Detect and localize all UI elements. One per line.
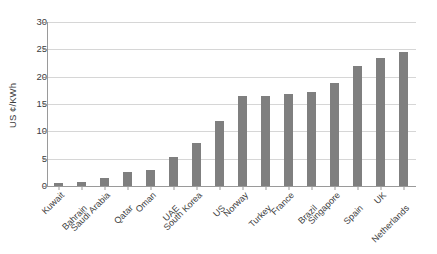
bar <box>100 178 109 186</box>
bar <box>169 157 178 186</box>
bar <box>353 66 362 186</box>
x-axis-tick-label: Qatar <box>112 203 135 226</box>
bar-slot <box>139 22 162 186</box>
bar-series <box>47 22 415 186</box>
bar <box>330 83 339 186</box>
bar-chart: US ¢/KWh 051015202530 KuwaitBahrainSaudi… <box>0 0 437 254</box>
bar-slot <box>277 22 300 186</box>
bar-slot <box>300 22 323 186</box>
bar-slot <box>392 22 415 186</box>
x-label-slot: Saudi Arabia <box>93 190 116 252</box>
x-label-slot: Spain <box>346 190 369 252</box>
y-axis-ticks: 051015202530 <box>0 22 47 186</box>
y-axis-tick-label: 15 <box>7 99 47 109</box>
bar <box>215 121 224 186</box>
bar <box>307 92 316 186</box>
x-axis-labels: KuwaitBahrainSaudi ArabiaQatarOmanUAESou… <box>47 190 415 252</box>
y-axis-tick-label: 10 <box>7 126 47 136</box>
x-label-slot: France <box>277 190 300 252</box>
bar <box>399 52 408 186</box>
bar-slot <box>231 22 254 186</box>
bar <box>238 96 247 186</box>
x-label-slot: US <box>208 190 231 252</box>
x-label-slot: Turkey <box>254 190 277 252</box>
bar <box>192 143 201 186</box>
x-axis-tick-label: UK <box>372 190 388 206</box>
x-label-slot: Netherlands <box>392 190 415 252</box>
bar-slot <box>162 22 185 186</box>
bar-slot <box>116 22 139 186</box>
bar-slot <box>369 22 392 186</box>
bar-slot <box>93 22 116 186</box>
y-axis-tick-label: 5 <box>7 154 47 164</box>
bar-slot <box>185 22 208 186</box>
bar-slot <box>47 22 70 186</box>
y-axis-tick-label: 30 <box>7 17 47 27</box>
bar-slot <box>254 22 277 186</box>
bar <box>376 58 385 186</box>
bar <box>284 94 293 186</box>
bar-slot <box>323 22 346 186</box>
bar <box>123 172 132 186</box>
bar <box>146 170 155 186</box>
x-label-slot: South Korea <box>185 190 208 252</box>
bar-slot <box>208 22 231 186</box>
bar-slot <box>70 22 93 186</box>
y-axis-tick-label: 25 <box>7 44 47 54</box>
bar-slot <box>346 22 369 186</box>
y-axis-tick-label: 20 <box>7 72 47 82</box>
bar <box>261 96 270 186</box>
x-axis-tick-label: Kuwait <box>39 190 65 216</box>
y-axis-tick-label: 0 <box>7 181 47 191</box>
x-label-slot: Oman <box>139 190 162 252</box>
x-label-slot: Qatar <box>116 190 139 252</box>
